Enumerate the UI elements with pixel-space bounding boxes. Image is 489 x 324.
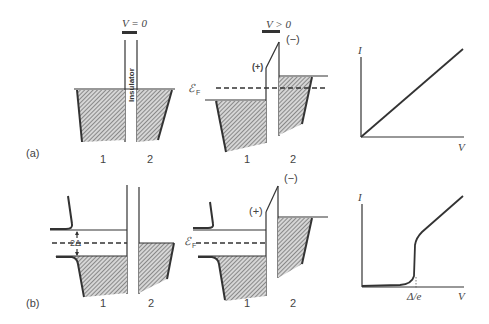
- panel-b-label: (b): [26, 297, 39, 309]
- metal-1-fill: [77, 90, 125, 142]
- panel-b: (b) 2Δ 1 2: [26, 172, 466, 309]
- metal-2-label: 2: [147, 153, 153, 165]
- panel-a-diagram-equilibrium: V = 0 Insulator 1 2: [74, 17, 175, 165]
- fermi-label: ℰ: [188, 82, 196, 94]
- y-axis-label: I: [357, 44, 363, 56]
- fermi-label: ℰ: [184, 235, 192, 247]
- plus-label: (+): [249, 205, 263, 217]
- plus-label: (+): [252, 62, 263, 72]
- metal-2-fill: [279, 77, 312, 135]
- minus-label: (−): [284, 172, 298, 184]
- metal-2-fill: [278, 218, 312, 278]
- metal-1-label: 1: [244, 153, 250, 165]
- metal-1-label: 1: [244, 297, 250, 309]
- metal-2-fill: [137, 90, 172, 142]
- panel-b-diagram-biased: (−) (+) ℰ F 1 2: [184, 172, 328, 309]
- metal-1-fill: [55, 256, 127, 297]
- panel-a-iv-plot: I V: [357, 44, 466, 153]
- voltage-label: V > 0: [266, 18, 291, 30]
- voltage-label: V = 0: [122, 17, 147, 29]
- y-axis-label: I: [357, 191, 363, 203]
- fermi-subscript: F: [192, 242, 196, 249]
- voltage-bar: [122, 31, 137, 34]
- panel-a-label: (a): [26, 147, 39, 159]
- metal-1-label: 1: [100, 153, 106, 165]
- panel-b-iv-plot: I V Δ/e: [357, 191, 466, 302]
- minus-label: (−): [286, 33, 300, 45]
- panel-a: (a) V = 0 Insulator 1 2 V > 0 (−) (+): [26, 17, 466, 165]
- tunneling-figure: (a) V = 0 Insulator 1 2 V > 0 (−) (+): [0, 0, 489, 324]
- metal-1-label: 1: [100, 297, 106, 309]
- panel-a-diagram-biased: V > 0 (−) (+) ℰ F 1 2: [188, 18, 328, 165]
- panel-b-diagram-equilibrium: 2Δ 1 2: [50, 185, 174, 309]
- x-axis-label: V: [458, 290, 466, 302]
- gap-label: 2Δ: [70, 238, 81, 248]
- iv-curve: [361, 49, 463, 137]
- fermi-subscript: F: [196, 89, 200, 96]
- x-axis-label: V: [458, 141, 466, 153]
- iv-curve: [362, 196, 463, 286]
- threshold-label: Δ/e: [406, 290, 422, 302]
- metal-2-label: 2: [290, 297, 296, 309]
- voltage-bar: [262, 30, 280, 33]
- metal-2-label: 2: [148, 297, 154, 309]
- metal-2-label: 2: [290, 153, 296, 165]
- metal-1-fill: [198, 256, 266, 301]
- insulator-label: Insulator: [127, 68, 136, 102]
